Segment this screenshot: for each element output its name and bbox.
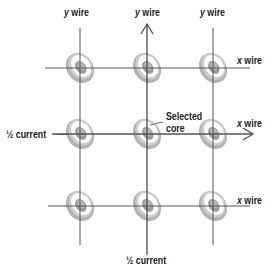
- x-wire-label-3: x wire: [237, 195, 262, 206]
- selected-core-label-line1: Selected: [166, 111, 202, 122]
- y-wire-label-2: y wire: [135, 7, 160, 18]
- half-current-bottom-label: ½ current: [126, 255, 166, 266]
- x-wire-label-2: x wire: [237, 118, 262, 129]
- half-current-left-leader: [57, 134, 67, 135]
- selected-core-label-line2: core: [166, 123, 185, 134]
- x-wire-label-1: x wire: [237, 55, 262, 66]
- y-wire-label-1: y wire: [64, 7, 89, 18]
- half-current-left-label: ½ current: [6, 129, 46, 140]
- y-wire-label-3: y wire: [200, 7, 225, 18]
